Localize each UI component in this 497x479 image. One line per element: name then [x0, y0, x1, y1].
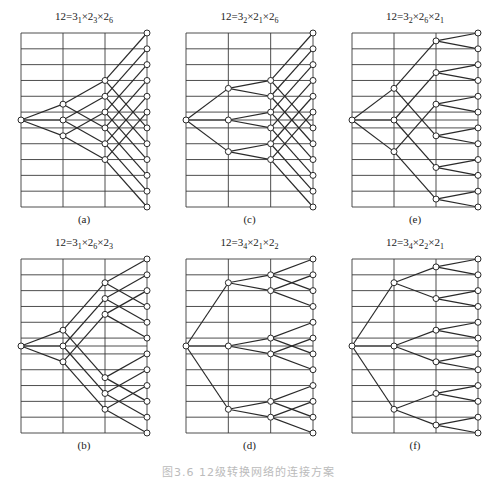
figure-caption: 图3.6 12级转换网络的连接方案 — [0, 463, 497, 479]
output-node — [310, 109, 316, 115]
edge — [436, 128, 478, 136]
output-node — [144, 430, 150, 436]
output-node — [310, 125, 316, 131]
stage2-node — [268, 351, 274, 357]
edge — [436, 160, 478, 168]
stage1-node — [60, 327, 66, 333]
stage2-node — [102, 141, 108, 147]
stage2-node — [433, 70, 439, 76]
stage2-node — [102, 109, 108, 115]
edge — [271, 386, 313, 402]
output-node — [310, 62, 316, 68]
output-node — [475, 414, 481, 420]
output-node — [144, 141, 150, 147]
output-node — [475, 256, 481, 262]
stage2-node — [433, 38, 439, 44]
edge — [228, 88, 270, 96]
edge — [352, 346, 394, 409]
panel-title-e: 12=32×26×21 — [345, 10, 485, 25]
stage2-node — [268, 398, 274, 404]
stage1-node — [225, 117, 231, 123]
output-node — [144, 157, 150, 163]
stage2-node — [268, 109, 274, 115]
output-node — [144, 288, 150, 294]
stage1-node — [225, 149, 231, 155]
edge — [436, 322, 478, 330]
edge — [271, 322, 313, 338]
edge — [352, 88, 394, 120]
output-node — [475, 319, 481, 325]
edge — [228, 401, 270, 409]
stage1-node — [391, 343, 397, 349]
stage2-node — [433, 327, 439, 333]
output-node — [475, 157, 481, 163]
edge — [436, 96, 478, 104]
output-node — [144, 272, 150, 278]
edge — [436, 330, 478, 338]
edge — [352, 283, 394, 346]
stage2-node — [102, 296, 108, 302]
output-node — [144, 125, 150, 131]
stage1-node — [391, 280, 397, 286]
edge — [436, 104, 478, 112]
panel-label-e: (e) — [395, 213, 435, 225]
root-node — [349, 343, 355, 349]
edge — [271, 259, 313, 275]
output-node — [144, 93, 150, 99]
edge — [436, 167, 478, 175]
edge — [436, 191, 478, 199]
output-node — [144, 46, 150, 52]
output-node — [310, 46, 316, 52]
output-node — [144, 335, 150, 341]
edge — [105, 354, 147, 378]
edge — [186, 88, 228, 120]
edge — [186, 120, 228, 152]
output-node — [310, 141, 316, 147]
edge — [271, 354, 313, 370]
output-node — [310, 172, 316, 178]
output-node — [144, 204, 150, 210]
edge — [228, 152, 270, 160]
stage1-node — [60, 117, 66, 123]
stage2-node — [433, 196, 439, 202]
output-node — [144, 351, 150, 357]
stage2-node — [268, 157, 274, 163]
stage2-node — [433, 264, 439, 270]
output-node — [310, 188, 316, 194]
edge — [436, 259, 478, 267]
panel-label-b: (b) — [64, 439, 104, 451]
output-node — [475, 46, 481, 52]
output-node — [310, 93, 316, 99]
edge — [436, 299, 478, 307]
output-node — [475, 367, 481, 373]
root-node — [183, 343, 189, 349]
edge — [436, 354, 478, 362]
output-node — [475, 30, 481, 36]
edge — [228, 346, 270, 354]
output-node — [144, 367, 150, 373]
output-node — [475, 141, 481, 147]
edge — [436, 199, 478, 207]
edge — [228, 144, 270, 152]
output-node — [310, 303, 316, 309]
stage2-node — [102, 406, 108, 412]
output-node — [144, 30, 150, 36]
output-node — [310, 430, 316, 436]
stage2-node — [433, 101, 439, 107]
output-node — [310, 351, 316, 357]
edge — [436, 362, 478, 370]
output-node — [475, 272, 481, 278]
stage1-node — [60, 359, 66, 365]
edge — [271, 417, 313, 433]
stage2-node — [268, 125, 274, 131]
edge — [228, 409, 270, 417]
output-node — [144, 303, 150, 309]
output-node — [310, 383, 316, 389]
stage1-node — [60, 343, 66, 349]
panel-title-d: 12=34×21×22 — [180, 236, 320, 251]
output-node — [475, 188, 481, 194]
stage1-node — [391, 117, 397, 123]
stage2-node — [268, 414, 274, 420]
stage2-node — [102, 93, 108, 99]
stage2-node — [433, 133, 439, 139]
